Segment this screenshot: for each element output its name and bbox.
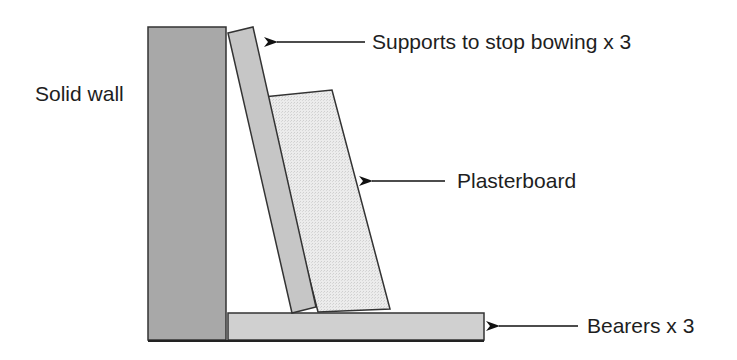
solid-wall xyxy=(148,27,226,340)
bearer xyxy=(228,313,484,340)
bearer-label: Bearers x 3 xyxy=(587,314,694,337)
solid-wall-label: Solid wall xyxy=(35,82,124,105)
plasterboard-label: Plasterboard xyxy=(457,169,576,192)
support-label: Supports to stop bowing x 3 xyxy=(372,30,631,53)
plasterboard-storage-diagram: Solid wall Supports to stop bowing x 3 P… xyxy=(0,0,737,360)
